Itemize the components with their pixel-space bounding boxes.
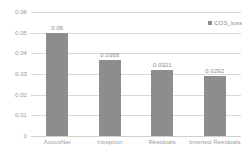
bar-value-label: 0.05 (51, 25, 63, 31)
y-axis: 00.010.020.030.040.050.06 (0, 0, 31, 156)
bars-layer: 0.050.03680.03210.0292 (31, 12, 241, 136)
bar[interactable] (46, 33, 68, 136)
bar[interactable] (151, 70, 173, 136)
chart-legend: COS_loss (208, 20, 242, 26)
x-axis-category-label: Residuals (149, 139, 176, 145)
y-axis-tick-label: 0.06 (15, 9, 27, 15)
legend-entry-label: COS_loss (214, 20, 242, 26)
bar[interactable] (204, 76, 226, 136)
y-axis-tick-label: 0.02 (15, 92, 27, 98)
bar-group: 0.0292 (189, 12, 242, 136)
x-axis-category-label: Inception (97, 139, 122, 145)
square-marker-icon (208, 21, 212, 25)
bar-value-label: 0.0321 (153, 62, 172, 68)
x-axis-category-label: Inverted Residuals (189, 139, 241, 145)
bar-chart: 00.010.020.030.040.050.06 0.050.03680.03… (0, 0, 248, 156)
y-axis-tick-label: 0.01 (15, 112, 27, 118)
bar-value-label: 0.0292 (205, 68, 224, 74)
y-axis-tick-label: 0.05 (15, 30, 27, 36)
gridline (31, 136, 241, 137)
bar-group: 0.0321 (136, 12, 189, 136)
x-axis: AcousNetInceptionResidualsInverted Resid… (31, 139, 241, 153)
x-axis-category-label: AcousNet (44, 139, 71, 145)
y-axis-tick-label: 0 (24, 133, 27, 139)
bar-value-label: 0.0368 (100, 52, 119, 58)
bar[interactable] (99, 60, 121, 136)
bar-group: 0.05 (31, 12, 84, 136)
y-axis-tick-label: 0.04 (15, 50, 27, 56)
y-axis-tick-label: 0.03 (15, 71, 27, 77)
bar-group: 0.0368 (84, 12, 137, 136)
